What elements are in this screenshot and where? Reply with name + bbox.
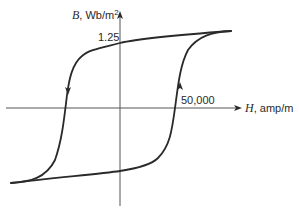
b-axis-unit: , Wb/m (79, 9, 114, 21)
descending-branch (11, 31, 231, 183)
h-axis-label: H, amp/m (244, 101, 293, 115)
h-value-label: 50,000 (181, 94, 215, 106)
b-value-label: 1.25 (98, 31, 119, 43)
ascending-branch (11, 31, 231, 183)
b-axis-unit-superscript: 2 (114, 8, 119, 17)
h-axis-unit: , amp/m (254, 102, 294, 114)
hysteresis-diagram: B, Wb/m2 H, amp/m 1.25 50,000 (0, 0, 299, 215)
b-axis-label: B, Wb/m2 (72, 8, 119, 22)
